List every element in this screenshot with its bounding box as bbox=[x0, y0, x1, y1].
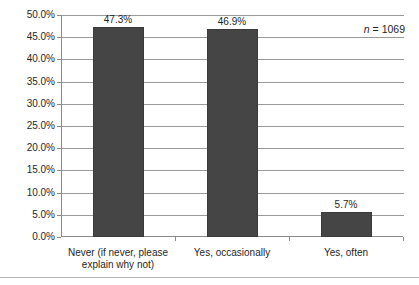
x-axis-tick bbox=[175, 237, 176, 241]
y-axis-label: 50.0% bbox=[7, 10, 55, 20]
y-axis-tick bbox=[57, 237, 61, 238]
x-axis-label-line: explain why not) bbox=[61, 259, 175, 271]
x-axis-label: Never (if never, pleaseexplain why not) bbox=[61, 247, 175, 271]
y-axis-label: 5.0% bbox=[7, 210, 55, 220]
x-axis-tick bbox=[403, 237, 404, 241]
y-axis-tick bbox=[57, 193, 61, 194]
y-axis-label: 15.0% bbox=[7, 165, 55, 175]
x-axis-label: Yes, occasionally bbox=[175, 247, 289, 259]
x-axis-label-line: Yes, occasionally bbox=[175, 247, 289, 259]
y-axis-tick bbox=[57, 82, 61, 83]
y-axis-tick bbox=[57, 59, 61, 60]
sample-size-annotation: n = 1069 bbox=[364, 23, 405, 35]
bar-value-label: 47.3% bbox=[78, 14, 158, 25]
y-axis-label: 25.0% bbox=[7, 121, 55, 131]
y-axis-tick bbox=[57, 104, 61, 105]
bottom-divider bbox=[0, 277, 419, 278]
bar[interactable] bbox=[321, 212, 372, 237]
y-axis-label: 40.0% bbox=[7, 54, 55, 64]
y-axis: 50.0%45.0%40.0%35.0%30.0%25.0%20.0%15.0%… bbox=[7, 0, 55, 285]
y-axis-label: 45.0% bbox=[7, 32, 55, 42]
y-axis-label: 0.0% bbox=[7, 232, 55, 242]
bar-chart: 50.0%45.0%40.0%35.0%30.0%25.0%20.0%15.0%… bbox=[0, 0, 419, 285]
y-axis-label: 30.0% bbox=[7, 99, 55, 109]
y-axis-label: 20.0% bbox=[7, 143, 55, 153]
sample-size-value: = 1069 bbox=[370, 23, 405, 35]
bar-value-label: 5.7% bbox=[306, 199, 386, 210]
bar-value-label: 46.9% bbox=[192, 16, 272, 27]
y-axis-tick bbox=[57, 170, 61, 171]
x-axis-label-line: Never (if never, please bbox=[61, 247, 175, 259]
y-axis-label: 35.0% bbox=[7, 77, 55, 87]
y-axis-tick bbox=[57, 126, 61, 127]
x-axis-tick bbox=[289, 237, 290, 241]
y-axis-tick bbox=[57, 37, 61, 38]
x-axis-label: Yes, often bbox=[289, 247, 403, 259]
x-axis-label-line: Yes, often bbox=[289, 247, 403, 259]
bar[interactable] bbox=[207, 29, 258, 237]
y-axis-tick bbox=[57, 215, 61, 216]
y-axis-tick bbox=[57, 148, 61, 149]
bar[interactable] bbox=[93, 27, 144, 237]
y-axis-tick bbox=[57, 15, 61, 16]
y-axis-label: 10.0% bbox=[7, 188, 55, 198]
